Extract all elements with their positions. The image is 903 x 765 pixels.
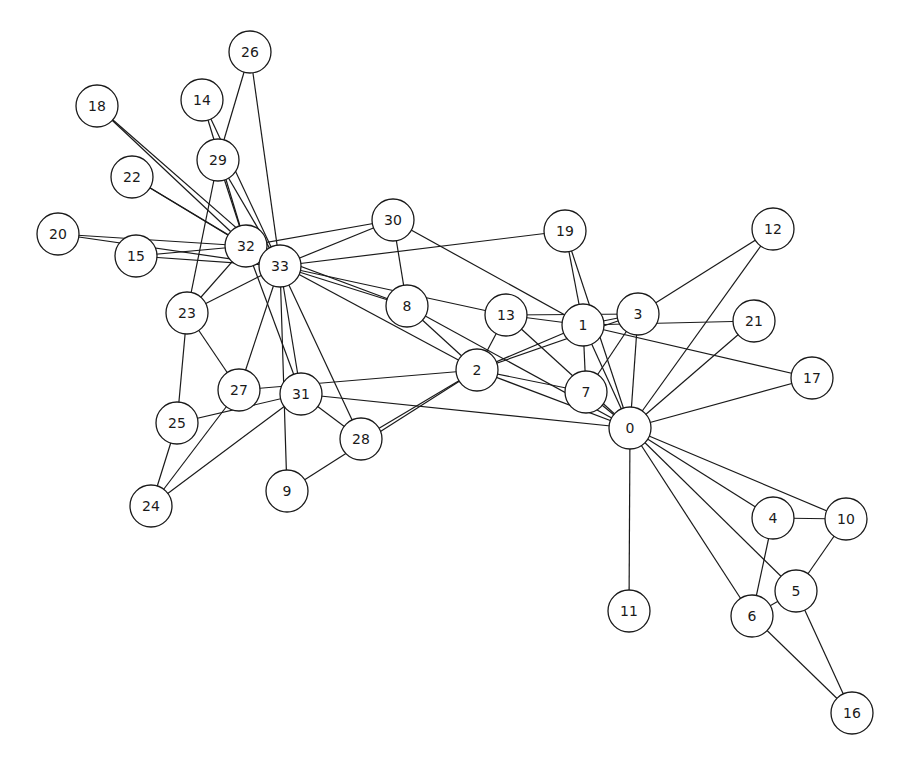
node-label: 16 (843, 705, 861, 721)
node-20: 20 (37, 213, 79, 255)
node-7: 7 (565, 371, 607, 413)
node-label: 12 (764, 221, 782, 237)
node-label: 2 (473, 362, 482, 378)
node-label: 18 (88, 98, 106, 114)
node-10: 10 (825, 498, 867, 540)
node-label: 10 (837, 511, 855, 527)
node-label: 5 (792, 583, 801, 599)
node-label: 8 (403, 298, 412, 314)
node-30: 30 (372, 199, 414, 241)
node-24: 24 (130, 485, 172, 527)
node-2: 2 (456, 349, 498, 391)
node-26: 26 (229, 31, 271, 73)
edge-0-21 (630, 321, 754, 428)
node-17: 17 (791, 357, 833, 399)
node-label: 17 (803, 370, 821, 386)
edge-0-10 (630, 428, 846, 519)
node-label: 22 (123, 169, 141, 185)
edge-0-4 (630, 428, 773, 518)
node-label: 7 (582, 384, 591, 400)
edge-2-27 (239, 370, 477, 390)
node-label: 3 (634, 306, 643, 322)
karate-club-network-graph: 0123456789101112131415161718192021222324… (0, 0, 903, 765)
node-8: 8 (386, 285, 428, 327)
node-label: 6 (748, 608, 757, 624)
node-label: 24 (142, 498, 160, 514)
node-label: 4 (769, 510, 778, 526)
node-1: 1 (562, 304, 604, 346)
node-23: 23 (166, 292, 208, 334)
node-12: 12 (752, 208, 794, 250)
node-18: 18 (76, 85, 118, 127)
node-16: 16 (831, 692, 873, 734)
node-label: 13 (497, 307, 515, 323)
node-label: 31 (292, 386, 310, 402)
node-label: 0 (626, 420, 635, 436)
node-label: 25 (168, 415, 186, 431)
node-25: 25 (156, 402, 198, 444)
node-label: 11 (620, 603, 638, 619)
node-9: 9 (266, 470, 308, 512)
node-28: 28 (340, 418, 382, 460)
node-0: 0 (609, 407, 651, 449)
node-4: 4 (752, 497, 794, 539)
node-label: 14 (193, 92, 211, 108)
node-label: 15 (127, 248, 145, 264)
node-33: 33 (259, 245, 301, 287)
node-29: 29 (197, 139, 239, 181)
edge-23-29 (187, 160, 218, 313)
node-6: 6 (731, 595, 773, 637)
node-19: 19 (544, 210, 586, 252)
node-label: 28 (352, 431, 370, 447)
node-3: 3 (617, 293, 659, 335)
node-label: 19 (556, 223, 574, 239)
node-label: 33 (271, 258, 289, 274)
node-27: 27 (218, 369, 260, 411)
node-label: 21 (745, 313, 763, 329)
node-label: 20 (49, 226, 67, 242)
node-label: 29 (209, 152, 227, 168)
node-5: 5 (775, 570, 817, 612)
node-13: 13 (485, 294, 527, 336)
node-label: 23 (178, 305, 196, 321)
edge-0-17 (630, 378, 812, 428)
edge-0-11 (629, 428, 630, 611)
node-22: 22 (111, 156, 153, 198)
node-label: 30 (384, 212, 402, 228)
node-31: 31 (280, 373, 322, 415)
node-15: 15 (115, 235, 157, 277)
node-14: 14 (181, 79, 223, 121)
edge-0-6 (630, 428, 752, 616)
node-label: 32 (237, 238, 255, 254)
node-label: 9 (283, 483, 292, 499)
node-21: 21 (733, 300, 775, 342)
node-11: 11 (608, 590, 650, 632)
edge-30-32 (246, 220, 393, 246)
node-label: 26 (241, 44, 259, 60)
node-label: 27 (230, 382, 248, 398)
node-label: 1 (579, 317, 588, 333)
